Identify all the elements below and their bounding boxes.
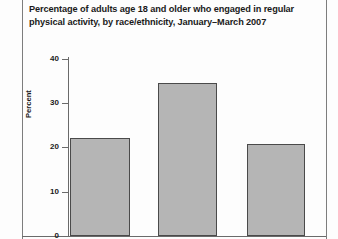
left-margin-rule	[22, 0, 23, 239]
chart-title-line-1: Percentage of adults age 18 and older wh…	[29, 3, 319, 16]
right-margin-rule	[326, 0, 327, 239]
chart-figure: Percentage of adults age 18 and older wh…	[0, 0, 338, 239]
y-tick-label-40: 40	[50, 54, 59, 63]
plot-area	[68, 59, 326, 236]
chart-title-line-2: physical activity, by race/ethnicity, Ja…	[29, 16, 319, 29]
chart-title: Percentage of adults age 18 and older wh…	[29, 3, 319, 29]
bar-1	[70, 138, 130, 236]
y-tick-label-10: 10	[50, 187, 59, 196]
y-tick-label-30: 30	[50, 98, 59, 107]
bar-2	[158, 83, 217, 236]
y-tick-label-20: 20	[50, 142, 59, 151]
y-tick-label-0: 0	[55, 231, 59, 239]
y-tick-0: 0	[62, 236, 68, 237]
bar-3	[247, 144, 305, 236]
y-axis-label: Percent	[24, 90, 33, 118]
